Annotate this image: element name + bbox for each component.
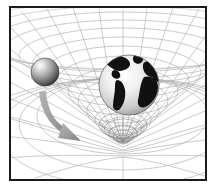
figure-root: A rubber-sheet grid warped into a gravit…: [0, 0, 215, 192]
scene-canvas: [11, 8, 205, 179]
small-sphere: [31, 58, 59, 86]
image-frame: [9, 6, 207, 181]
spacetime-diagram: [11, 8, 205, 179]
